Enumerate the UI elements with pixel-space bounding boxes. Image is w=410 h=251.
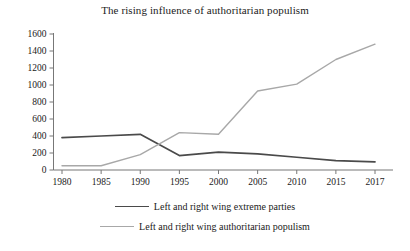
legend-item-authoritarian-populism: Left and right wing authoritarian populi… [0, 216, 410, 236]
legend-swatch-extreme-parties [115, 206, 149, 207]
data-series-group [62, 44, 375, 166]
x-tick-label: 2010 [287, 177, 306, 187]
x-tick-label: 2017 [366, 177, 385, 187]
x-tick-label: 1980 [53, 177, 72, 187]
series-line-authoritarian-populism [62, 44, 375, 166]
y-tick-label: 1000 [28, 80, 47, 90]
x-tick-label: 2015 [326, 177, 345, 187]
x-tick-label: 1995 [170, 177, 189, 187]
y-axis: 02004006008001000120014001600 [28, 29, 54, 175]
x-tick-label: 2000 [209, 177, 228, 187]
y-tick-label: 1400 [28, 46, 47, 56]
legend-swatch-authoritarian-populism [100, 226, 134, 227]
y-tick-label: 200 [32, 148, 47, 158]
y-tick-label: 600 [32, 114, 47, 124]
x-tick-label: 1990 [131, 177, 150, 187]
x-axis: 198019851990199520002005201020152017 [53, 170, 394, 187]
y-tick-label: 800 [32, 97, 47, 107]
legend-label-extreme-parties: Left and right wing extreme parties [154, 201, 295, 212]
legend-item-extreme-parties: Left and right wing extreme parties [0, 196, 410, 216]
chart-legend: Left and right wing extreme parties Left… [0, 196, 410, 236]
series-line-extreme-parties [62, 134, 375, 162]
y-tick-label: 1600 [28, 29, 47, 39]
chart-figure: The rising influence of authoritarian po… [0, 0, 410, 251]
x-tick-label: 1985 [92, 177, 111, 187]
x-tick-label: 2005 [248, 177, 267, 187]
y-tick-label: 400 [32, 131, 47, 141]
y-tick-label: 0 [42, 165, 47, 175]
legend-label-authoritarian-populism: Left and right wing authoritarian populi… [139, 221, 310, 232]
y-tick-label: 1200 [28, 63, 47, 73]
